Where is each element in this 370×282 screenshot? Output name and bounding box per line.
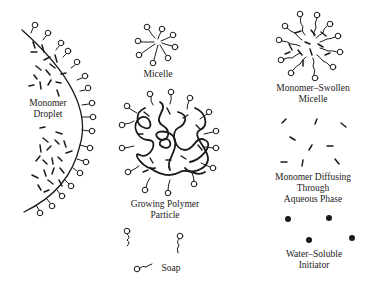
label-line: Aqueous Phase (268, 194, 358, 205)
label-line: Through (268, 183, 358, 194)
label-line: Water–Soluble (272, 249, 356, 260)
label-line: Monomer (18, 98, 78, 109)
monomer-swollen-micelle (276, 11, 343, 81)
micelle (135, 24, 178, 66)
label-line: Monomer Diffusing (268, 172, 358, 183)
label-line: Growing Polymer (125, 199, 205, 210)
label-line: Droplet (18, 109, 78, 120)
label-growing-polymer-particle: Growing Polymer Particle (125, 199, 205, 221)
label-water-soluble-initiator: Water–Soluble Initiator (272, 249, 356, 271)
label-monomer-droplet: Monomer Droplet (18, 98, 78, 120)
label-line: Micelle (268, 94, 358, 105)
diffusing-monomer-dashes (281, 119, 346, 166)
initiator-dots (285, 215, 355, 243)
diagram-canvas (0, 0, 370, 282)
label-line: Particle (125, 210, 205, 221)
label-soap: Soap (156, 263, 186, 274)
label-line: Micelle (130, 69, 186, 80)
particle-soap-molecules (119, 89, 219, 196)
label-monomer-swollen-micelle: Monomer–Swollen Micelle (268, 83, 358, 105)
label-line: Soap (156, 263, 186, 274)
label-line: Monomer–Swollen (268, 83, 358, 94)
label-monomer-diffusing: Monomer Diffusing Through Aqueous Phase (268, 172, 358, 205)
label-line: Initiator (272, 260, 356, 271)
label-micelle: Micelle (130, 69, 186, 80)
